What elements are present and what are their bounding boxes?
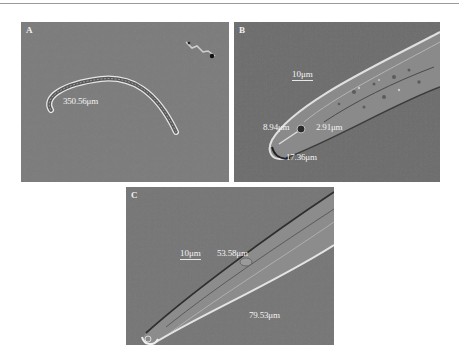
nematode-tail-image — [126, 187, 334, 345]
scale-bar-c: 10μm — [180, 248, 201, 258]
panel-label-c: C — [131, 190, 138, 200]
scale-bar-label: 10μm — [180, 248, 201, 258]
panel-a-micrograph: A 350.56μm — [21, 22, 229, 182]
panel-c-micrograph: C 10μm 53.58μm 79.53μm — [126, 187, 334, 345]
scale-bar-label: 10μm — [292, 69, 313, 79]
scale-bar-line — [180, 259, 201, 260]
panel-label-a: A — [26, 25, 33, 35]
panel-b-micrograph: B 10μm 8.94μm 2.91μm 17.36μm — [234, 22, 440, 182]
knob-width-measurement: 2.91μm — [316, 122, 342, 132]
nematode-whole-body-image — [21, 22, 229, 182]
tail-length-measurement: 79.53μm — [249, 310, 280, 320]
panel-label-b: B — [239, 25, 245, 35]
nematode-anterior-head-image — [234, 22, 440, 182]
scale-bar-line — [292, 80, 313, 81]
top-rule — [0, 3, 459, 4]
stylet-length-measurement: 8.94μm — [263, 122, 289, 132]
scale-bar-b: 10μm — [292, 69, 313, 79]
body-length-measurement: 350.56μm — [63, 96, 98, 106]
head-width-measurement: 17.36μm — [286, 152, 317, 162]
body-width-measurement: 53.58μm — [217, 248, 248, 258]
